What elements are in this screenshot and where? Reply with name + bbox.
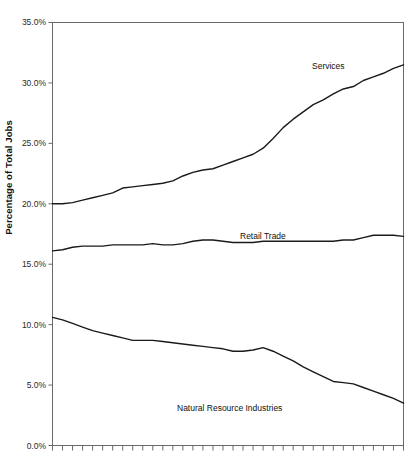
x-axis-ticks xyxy=(53,446,404,451)
series-annotation-services: Services xyxy=(312,61,345,71)
series-annotation-retail-trade: Retail Trade xyxy=(240,231,286,241)
series-annotation-natural-resource-industries: Natural Resource Industries xyxy=(177,403,282,413)
chart-figure: Percentage of Total Jobs 35.0% 30.0% 25.… xyxy=(0,0,416,460)
y-axis-ticks xyxy=(49,23,53,446)
plot-area xyxy=(0,0,416,460)
plot-frame xyxy=(53,23,404,446)
